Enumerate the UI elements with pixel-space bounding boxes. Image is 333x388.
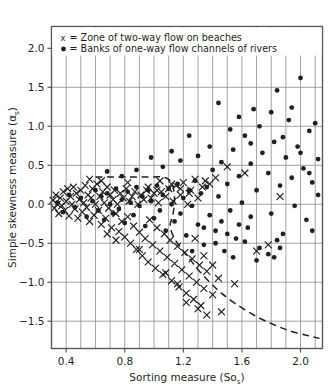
x-tick-label: 1.2 (175, 355, 192, 367)
marker-dot (310, 180, 315, 185)
marker-dot (269, 110, 274, 115)
marker-dot (190, 203, 195, 208)
marker-dot (237, 174, 242, 179)
marker-dot (128, 200, 133, 205)
marker-dot (61, 210, 66, 215)
marker-dot (275, 238, 280, 243)
marker-dot (149, 199, 154, 204)
marker-dot (172, 219, 177, 224)
y-axis-title-tail: ) (6, 107, 18, 111)
marker-dot (105, 191, 110, 196)
marker-dot (281, 231, 286, 236)
legend-label-beaches: = Zone of two-way flow on beaches (70, 32, 242, 43)
marker-dot (240, 200, 245, 205)
x-tick-label: 1.6 (234, 355, 251, 367)
marker-dot (201, 225, 206, 230)
marker-dot (207, 213, 212, 218)
x-tick-label: 0.8 (116, 355, 133, 367)
legend-marker-x: x (61, 33, 66, 43)
marker-dot (178, 211, 183, 216)
marker-dot (248, 141, 253, 146)
marker-dot (122, 221, 127, 226)
x-axis-title-tail: ) (241, 371, 245, 383)
x-axis-title: Sorting measure (Sos) (129, 371, 244, 386)
marker-dot (146, 188, 151, 193)
marker-dot (242, 133, 247, 138)
marker-dot (307, 129, 312, 134)
marker-dot (158, 208, 163, 213)
marker-dot (269, 211, 274, 216)
marker-dot (125, 189, 130, 194)
marker-dot (160, 193, 165, 198)
legend: x= Zone of two-way flow on beaches= Bank… (53, 28, 322, 56)
marker-dot (111, 211, 116, 216)
x-tick-label: 0.4 (58, 355, 75, 367)
marker-dot (266, 171, 271, 176)
marker-dot (231, 147, 236, 152)
legend-label-rivers: = Banks of one-way flow channels of rive… (70, 43, 278, 54)
marker-dot (304, 217, 309, 222)
marker-dot (251, 107, 256, 112)
marker-dot (160, 164, 165, 169)
marker-dot (84, 214, 89, 219)
marker-dot (260, 150, 265, 155)
marker-dot (234, 236, 239, 241)
marker-dot (108, 202, 113, 207)
marker-dot (114, 186, 119, 191)
marker-dot (105, 169, 110, 174)
marker-dot (289, 105, 294, 110)
y-tick-label: 0.0 (28, 198, 45, 210)
marker-dot (96, 208, 101, 213)
marker-dot (213, 241, 218, 246)
marker-dot (119, 197, 124, 202)
marker-dot (178, 158, 183, 163)
marker-dot (55, 200, 60, 205)
marker-dot (90, 199, 95, 204)
marker-dot (272, 255, 277, 260)
y-tick-label: −1.0 (19, 276, 45, 288)
marker-dot (310, 228, 315, 233)
marker-dot (248, 214, 253, 219)
marker-dot (242, 239, 247, 244)
marker-dot (196, 222, 201, 227)
marker-dot (137, 203, 142, 208)
marker-dot (175, 182, 180, 187)
y-tick-label: −0.5 (19, 237, 45, 249)
marker-dot (201, 242, 206, 247)
x-tick-label: 2.0 (292, 355, 309, 367)
marker-dot (166, 186, 171, 191)
marker-dot (298, 76, 303, 81)
y-axis-title-main: Simple skewness measure (α (6, 115, 18, 268)
marker-dot (134, 168, 139, 173)
marker-dot (73, 205, 78, 210)
marker-dot (78, 196, 83, 201)
marker-dot (225, 182, 230, 187)
marker-dot (254, 258, 259, 263)
marker-dot (228, 127, 233, 132)
marker-dot (254, 188, 259, 193)
marker-dot (99, 194, 104, 199)
marker-dot (275, 88, 280, 93)
marker-dot (301, 166, 306, 171)
marker-dot (286, 118, 291, 123)
marker-dot (187, 188, 192, 193)
y-tick-label: 1.5 (28, 81, 45, 93)
marker-dot (316, 193, 321, 198)
marker-dot (152, 216, 157, 221)
marker-dot (204, 185, 209, 190)
y-tick-label: 1.0 (28, 120, 45, 132)
marker-dot (149, 155, 154, 160)
marker-dot (134, 185, 139, 190)
marker-dot (272, 139, 277, 144)
marker-dot (289, 175, 294, 180)
marker-dot (216, 194, 221, 199)
marker-dot (193, 178, 198, 183)
marker-dot (116, 207, 121, 212)
marker-dot (190, 249, 195, 254)
marker-dot (196, 154, 201, 159)
marker-dot (248, 161, 253, 166)
marker-dot (316, 157, 321, 162)
marker-dot (216, 101, 221, 106)
marker-dot (67, 193, 72, 198)
y-tick-label: 2.0 (28, 42, 45, 54)
